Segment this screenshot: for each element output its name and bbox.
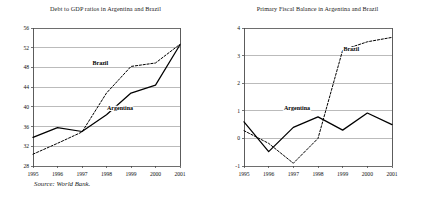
- x-tick-label: 1998: [312, 171, 323, 177]
- x-tick-label: 1997: [288, 171, 299, 177]
- y-tick-label: 0: [237, 135, 240, 141]
- y-tick-label: 32: [23, 143, 29, 149]
- series-label-argentina: Argentina: [107, 105, 133, 111]
- x-tick-label: 1997: [76, 171, 87, 177]
- figure-container: Debt to GDP ratios in Argentina and Braz…: [0, 0, 423, 197]
- x-tick-label: 2001: [174, 171, 185, 177]
- plot-area-primary-fiscal-balance: -1012341995199619971998199920002001Argen…: [212, 0, 423, 197]
- chart-panel-primary-fiscal-balance: Primary Fiscal Balance in Argentina and …: [212, 0, 423, 197]
- x-tick-label: 1999: [125, 171, 136, 177]
- y-tick-label: 48: [23, 64, 29, 70]
- series-label-argentina: Argentina: [284, 105, 310, 111]
- y-tick-label: 36: [23, 124, 29, 130]
- y-tick-label: 1: [237, 108, 240, 114]
- series-line-argentina: [244, 113, 392, 152]
- series-line-argentina: [33, 45, 180, 138]
- y-tick-label: 44: [23, 84, 29, 90]
- y-tick-label: 3: [237, 53, 240, 59]
- y-tick-label: -1: [235, 163, 240, 169]
- source-note: Source: World Bank.: [34, 180, 90, 187]
- plot-area-debt-to-gdp: 2832364044485256199519961997199819992000…: [0, 0, 211, 197]
- y-tick-label: 2: [237, 80, 240, 86]
- x-tick-label: 1996: [263, 171, 274, 177]
- series-label-brazil: Brazil: [93, 60, 109, 66]
- chart-panel-debt-to-gdp: Debt to GDP ratios in Argentina and Braz…: [0, 0, 211, 197]
- y-tick-label: 28: [23, 163, 29, 169]
- y-tick-label: 4: [237, 25, 240, 31]
- series-label-brazil: Brazil: [343, 46, 359, 52]
- y-tick-label: 52: [23, 45, 29, 51]
- x-tick-label: 2001: [386, 171, 397, 177]
- x-tick-label: 1998: [101, 171, 112, 177]
- x-tick-label: 1995: [27, 171, 38, 177]
- series-line-brazil: [244, 37, 392, 163]
- x-tick-label: 1996: [52, 171, 63, 177]
- x-tick-label: 1999: [337, 171, 348, 177]
- y-tick-label: 56: [23, 25, 29, 31]
- y-tick-label: 40: [23, 104, 29, 110]
- x-tick-label: 2000: [362, 171, 373, 177]
- x-tick-label: 2000: [150, 171, 161, 177]
- x-tick-label: 1995: [238, 171, 249, 177]
